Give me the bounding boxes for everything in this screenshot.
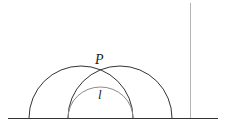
label-curve-l: l bbox=[98, 87, 102, 102]
label-point-p: P bbox=[94, 52, 104, 67]
diagram-canvas: P l bbox=[0, 0, 230, 126]
diagram-svg: P l bbox=[0, 0, 230, 126]
